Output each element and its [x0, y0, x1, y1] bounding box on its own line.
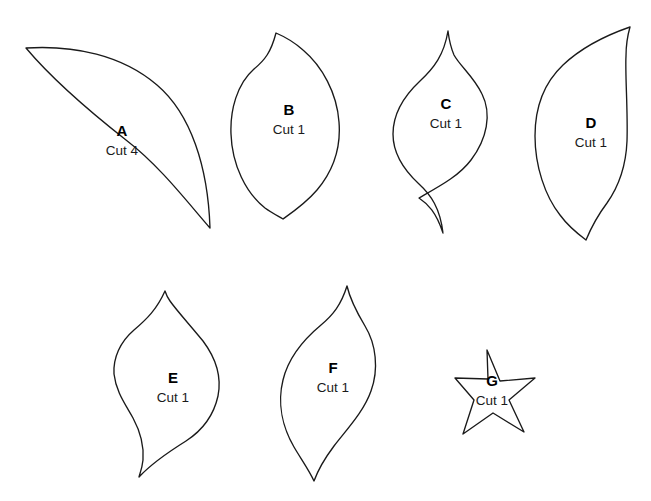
piece-b-letter: B — [284, 101, 295, 118]
pattern-piece-e: E Cut 1 — [114, 291, 219, 477]
piece-c-outline — [393, 31, 487, 233]
pattern-piece-c: C Cut 1 — [393, 31, 487, 233]
piece-d-cut-label: Cut 1 — [575, 135, 607, 150]
piece-f-cut-label: Cut 1 — [317, 380, 349, 395]
pattern-piece-f: F Cut 1 — [281, 286, 376, 481]
piece-a-cut-label: Cut 4 — [106, 143, 139, 158]
piece-e-cut-label: Cut 1 — [157, 390, 189, 405]
pattern-sheet: A Cut 4 B Cut 1 C Cut 1 D Cut 1 E Cut 1 — [0, 0, 651, 501]
piece-e-outline — [114, 291, 219, 477]
pattern-piece-g: G Cut 1 — [455, 350, 535, 434]
piece-g-outline — [455, 350, 535, 434]
piece-g-cut-label: Cut 1 — [476, 393, 508, 408]
piece-d-letter: D — [586, 114, 597, 131]
piece-f-letter: F — [328, 359, 337, 376]
pattern-piece-a: A Cut 4 — [26, 47, 210, 228]
pattern-piece-d: D Cut 1 — [535, 27, 630, 240]
piece-c-cut-label: Cut 1 — [430, 116, 462, 131]
piece-b-cut-label: Cut 1 — [273, 122, 305, 137]
pattern-piece-b: B Cut 1 — [231, 33, 339, 219]
piece-a-letter: A — [117, 122, 128, 139]
piece-c-letter: C — [441, 95, 452, 112]
piece-e-letter: E — [168, 369, 178, 386]
pattern-pieces-canvas: A Cut 4 B Cut 1 C Cut 1 D Cut 1 E Cut 1 — [0, 0, 651, 501]
piece-g-letter: G — [486, 372, 498, 389]
piece-d-outline — [535, 27, 630, 240]
